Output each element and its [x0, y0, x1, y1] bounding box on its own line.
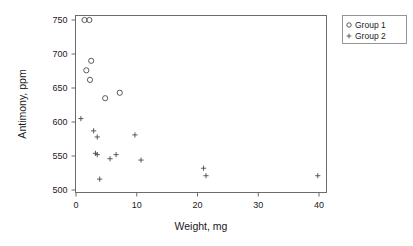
x-tick-label: 10: [132, 200, 142, 210]
x-axis-title: Weight, mg: [175, 220, 228, 232]
y-tick-label: 750: [52, 15, 67, 25]
x-tick-label: 40: [314, 200, 324, 210]
y-axis-title: Antimony, ppm: [16, 69, 28, 139]
y-tick-label: 550: [52, 151, 67, 161]
legend-label: Group 2: [355, 31, 386, 41]
x-tick-label: 0: [73, 200, 78, 210]
x-tick-label: 20: [192, 200, 202, 210]
y-tick-label: 500: [52, 185, 67, 195]
y-tick-label: 650: [52, 83, 67, 93]
legend-label: Group 1: [355, 20, 386, 30]
legend: Group 1Group 2: [343, 16, 407, 44]
scatter-plot-figure: 010203040 500550600650700750 Weight, mg …: [0, 0, 413, 246]
x-tick-label: 30: [253, 200, 263, 210]
y-tick-label: 600: [52, 117, 67, 127]
plot-canvas: 010203040 500550600650700750 Weight, mg …: [0, 0, 413, 246]
y-tick-label: 700: [52, 49, 67, 59]
